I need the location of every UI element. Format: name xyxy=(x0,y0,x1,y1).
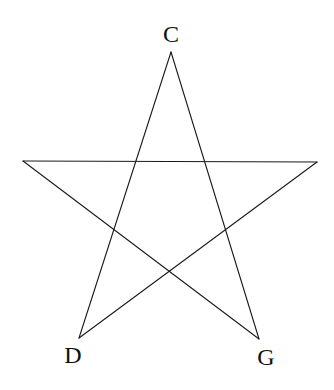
segment-c-to-g xyxy=(171,52,259,339)
label-d: D xyxy=(64,342,81,368)
star-lines xyxy=(23,52,317,339)
label-c: C xyxy=(163,21,179,47)
segment-c-to-d xyxy=(79,52,171,338)
segment-right-to-d xyxy=(79,162,317,338)
segment-left-to-g xyxy=(23,161,259,339)
segment-left-to-right xyxy=(23,161,317,162)
vertex-labels: C D G xyxy=(64,21,274,370)
label-g: G xyxy=(257,344,274,370)
pentagram-diagram: C D G xyxy=(0,0,334,390)
